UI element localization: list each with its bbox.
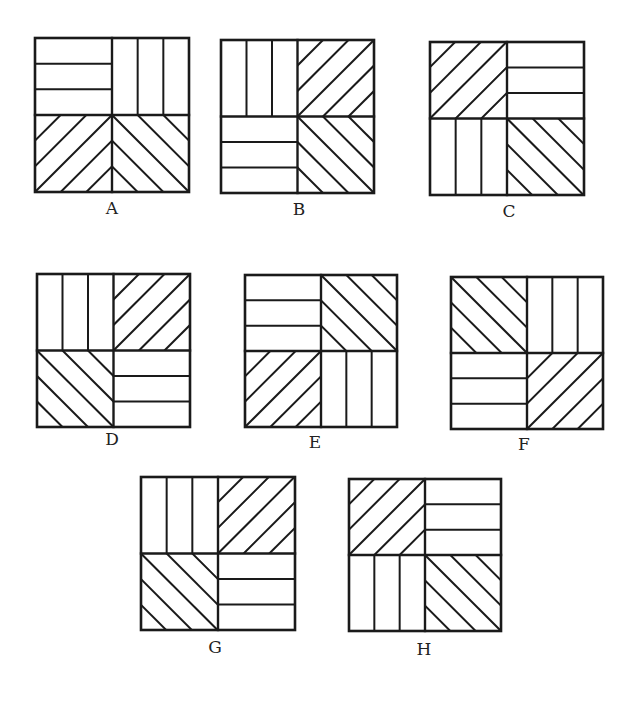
figure-option-f[interactable]: [451, 277, 605, 431]
option-label-e: E: [295, 432, 335, 452]
figure-option-b[interactable]: [221, 40, 376, 195]
option-label-a: A: [92, 198, 132, 218]
option-label-g: G: [195, 637, 235, 657]
option-label-d: D: [92, 429, 132, 449]
option-label-c: C: [489, 201, 529, 221]
quadrant-bottom-left-h: [451, 378, 527, 403]
figure-option-h[interactable]: [349, 479, 503, 633]
pattern-square: [347, 477, 503, 633]
figure-option-g[interactable]: [141, 477, 297, 632]
quadrant-top-right-v: [138, 38, 164, 115]
quadrant-bottom-right-h: [114, 376, 191, 402]
quadrant-top-right-v: [552, 277, 577, 353]
quadrant-bottom-right-v: [346, 351, 371, 427]
quadrant-top-left-v: [247, 40, 273, 117]
pattern-square: [219, 38, 376, 195]
quadrant-bottom-left-v: [456, 119, 482, 196]
quadrant-top-left-h: [35, 64, 112, 90]
quadrant-bottom-left-h: [221, 142, 298, 168]
pattern-square: [243, 273, 399, 429]
pattern-square: [428, 40, 586, 197]
figure-option-d[interactable]: [37, 274, 192, 429]
pattern-square: [35, 272, 192, 429]
quadrant-bottom-right-h: [218, 579, 295, 605]
figure-option-c[interactable]: [430, 42, 586, 197]
option-label-f: F: [504, 434, 544, 454]
pattern-square: [449, 275, 605, 431]
pattern-square: [33, 36, 191, 194]
quadrant-bottom-left-v: [374, 555, 399, 631]
option-label-h: H: [404, 639, 444, 659]
figure-option-a[interactable]: [35, 38, 191, 194]
pattern-square: [139, 475, 297, 632]
quadrant-top-right-h: [425, 504, 501, 529]
quadrant-top-left-v: [167, 477, 193, 554]
option-label-b: B: [279, 199, 319, 219]
quadrant-top-left-v: [63, 274, 89, 351]
quadrant-top-left-h: [245, 300, 321, 325]
quadrant-top-right-h: [507, 68, 584, 94]
figure-option-e[interactable]: [245, 275, 399, 429]
